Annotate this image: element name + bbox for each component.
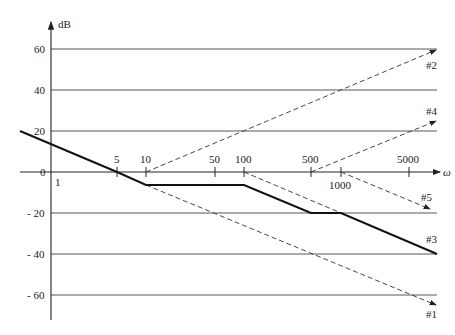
y-label-neg60: - 60 <box>27 289 45 301</box>
curve-5a <box>244 172 341 213</box>
curve-label-3: #3 <box>426 233 438 245</box>
curve-label-2: #2 <box>426 59 437 71</box>
bode-plot: 60 40 20 0 - 20 - 40 - 60 dB ω 1 5 10 50… <box>0 0 455 335</box>
x-axis-label: ω <box>443 166 451 178</box>
x-label-5: 5 <box>114 153 120 165</box>
y-label-neg20: - 20 <box>27 207 45 219</box>
x-label-100: 100 <box>235 153 252 165</box>
curve-2 <box>146 50 436 172</box>
curve-3 <box>20 131 437 254</box>
x-label-10: 10 <box>140 153 152 165</box>
x-label-1000: 1000 <box>329 179 352 191</box>
curve-label-1: #1 <box>426 308 437 320</box>
x-label-50: 50 <box>209 153 221 165</box>
curve-5b <box>341 172 430 209</box>
curve-label-4: #4 <box>426 105 438 117</box>
x-label-500: 500 <box>302 153 319 165</box>
y-label-60: 60 <box>34 43 46 55</box>
curve-label-5: #5 <box>421 191 433 203</box>
curve-1 <box>146 185 436 305</box>
y-label-0: 0 <box>40 166 46 178</box>
y-label-40: 40 <box>34 84 46 96</box>
x-label-1: 1 <box>55 176 61 188</box>
x-label-5000: 5000 <box>397 153 420 165</box>
y-axis-label: dB <box>58 18 71 30</box>
dashed-asymptotes <box>146 50 436 305</box>
y-label-20: 20 <box>34 125 46 137</box>
y-label-neg40: - 40 <box>27 248 45 260</box>
